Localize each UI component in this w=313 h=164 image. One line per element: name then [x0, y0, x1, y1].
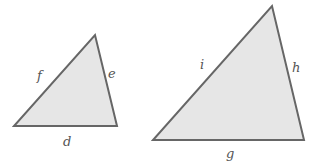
small-triangle	[14, 35, 117, 126]
label-e: e	[108, 66, 116, 81]
label-i: i	[200, 57, 204, 72]
label-h: h	[292, 60, 300, 75]
label-d: d	[63, 134, 71, 149]
large-triangle	[153, 6, 304, 140]
similar-triangles-diagram: d e f g h i	[0, 0, 313, 164]
label-g: g	[226, 146, 234, 161]
label-f: f	[36, 68, 44, 83]
